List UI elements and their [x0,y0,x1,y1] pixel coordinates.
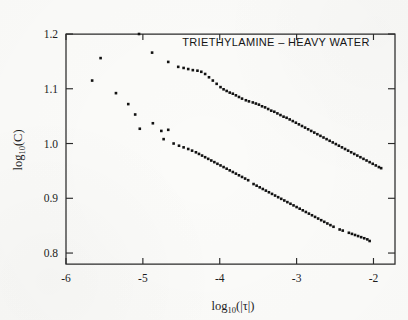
y-axis-title: log10(C) [11,129,27,170]
data-point [360,236,363,239]
data-point [320,219,323,222]
data-point [329,224,332,227]
data-point [357,235,360,238]
data-point [200,70,203,73]
series-lower-branch [91,57,371,243]
data-point [151,51,154,54]
y-axis-title-subscript: 10 [17,146,27,155]
data-point [191,149,194,152]
data-point [274,194,277,197]
data-point [304,126,307,129]
data-point [331,141,334,144]
data-point [356,154,359,157]
data-point [195,151,198,154]
y-tick-label: 0.8 [44,247,59,259]
data-point [319,135,322,138]
data-point [344,148,347,151]
data-point [115,92,118,95]
data-point [338,228,341,231]
data-point [152,122,155,125]
data-point [215,83,218,86]
data-point [332,225,335,228]
data-point [307,128,310,131]
data-point [264,106,267,109]
data-point [265,189,268,192]
data-point [322,136,325,139]
data-point [317,217,320,220]
data-point [167,129,170,132]
data-point [310,130,313,133]
data-point [210,159,213,162]
data-point [204,156,207,159]
data-point [212,79,215,82]
data-point [271,193,274,196]
data-point [268,191,271,194]
y-tick-label: 0.9 [44,192,59,204]
data-point [258,186,261,189]
data-point [301,125,304,128]
plot-title: TRIETHYLAMINE – HEAVY WATER [182,36,370,48]
x-axis-title-subscript: 10 [228,305,237,315]
data-point [235,94,238,97]
data-point [273,110,276,113]
data-point [192,69,195,72]
data-point [172,142,175,145]
data-point [323,221,326,224]
data-point [187,68,190,71]
data-point [127,103,130,106]
data-point [286,201,289,204]
data-point [311,214,314,217]
data-point [371,162,374,165]
data-point [182,67,185,70]
data-point [252,183,255,186]
series-upper-branch [138,33,383,170]
scatter-plot: -6-5-4-3-2 0.80.91.01.11.2 TRIETHYLAMINE… [0,0,408,320]
data-point [289,202,292,205]
data-point [288,118,291,121]
data-point [216,162,219,165]
y-axis-ticks: 0.80.91.01.11.2 [44,28,395,259]
data-point [177,66,180,69]
data-point [219,164,222,167]
data-point [222,88,225,91]
data-point [160,130,163,133]
data-point [341,229,344,232]
data-point [378,166,381,169]
data-point [248,100,251,103]
data-point [276,112,279,115]
data-point [325,138,328,141]
data-point [267,108,270,111]
y-axis-title-tail: (C) [11,129,25,146]
x-tick-label: -3 [292,272,302,284]
data-point [295,206,298,209]
data-point [167,61,170,64]
data-point [326,222,329,225]
data-point [353,153,356,156]
data-point [282,115,285,118]
x-axis-title-tail: (|τ|) [236,299,254,313]
y-tick-label: 1.2 [44,28,59,40]
data-point [283,199,286,202]
data-point [162,138,165,141]
figure-container: -6-5-4-3-2 0.80.91.01.11.2 TRIETHYLAMINE… [0,0,408,320]
data-point [182,146,185,149]
data-point [285,116,288,119]
data-point [198,153,201,156]
data-point [298,123,301,126]
data-point [201,154,204,157]
data-point [348,231,351,234]
data-point [213,161,216,164]
data-point [187,148,190,151]
data-point [251,101,254,104]
data-point [363,237,366,240]
x-axis-ticks: -6-5-4-3-2 [61,34,378,284]
data-point [258,103,261,106]
data-point [295,121,298,124]
data-point [301,209,304,212]
data-point [280,198,283,201]
data-point [238,174,241,177]
data-point [347,149,350,152]
data-point [222,166,225,169]
data-point [261,188,264,191]
data-point [238,96,241,99]
